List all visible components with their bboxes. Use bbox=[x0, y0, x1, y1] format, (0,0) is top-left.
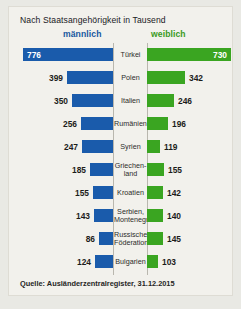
country-label: Polen bbox=[114, 73, 147, 81]
female-bar-cell: 140 bbox=[147, 204, 232, 227]
country-label-line1: Syrien bbox=[114, 142, 147, 150]
country-label-line1: Polen bbox=[114, 73, 147, 81]
chart-row: 776Türkei730 bbox=[9, 43, 232, 66]
male-value: 776 bbox=[23, 50, 45, 60]
male-bar bbox=[93, 186, 113, 199]
chart-row: 143Serbien,Montenegro140 bbox=[9, 204, 232, 227]
country-label: RussischeFöderation bbox=[114, 230, 147, 247]
female-bar bbox=[147, 186, 163, 199]
male-bar-cell: 776 bbox=[9, 43, 113, 66]
female-bar-cell: 145 bbox=[147, 227, 232, 250]
country-label-line2: Föderation bbox=[114, 239, 147, 247]
male-bar-cell: 86 bbox=[9, 227, 113, 250]
male-bar-cell: 247 bbox=[9, 135, 113, 158]
chart-row: 86RussischeFöderation145 bbox=[9, 227, 232, 250]
male-value: 256 bbox=[63, 119, 77, 129]
country-label: Serbien,Montenegro bbox=[114, 207, 147, 224]
male-bar-cell: 399 bbox=[9, 66, 113, 89]
legend-male-label: männlich bbox=[63, 29, 102, 39]
chart-rows: 776Türkei730399Polen342350Italien246256R… bbox=[9, 43, 232, 273]
chart-title: Nach Staatsangehörigkeit in Tausend bbox=[20, 15, 166, 25]
male-value: 86 bbox=[86, 234, 95, 244]
source-note: Quelle: Ausländerzentralregister, 31.12.… bbox=[20, 279, 175, 288]
female-value: 140 bbox=[167, 211, 181, 221]
country-label-line2: land bbox=[114, 170, 147, 178]
country-label: Italien bbox=[114, 96, 147, 104]
female-bar-cell: 142 bbox=[147, 181, 232, 204]
chart-panel: Nach Staatsangehörigkeit in Tausend männ… bbox=[9, 7, 232, 295]
female-value: 196 bbox=[172, 119, 186, 129]
male-value: 185 bbox=[72, 165, 86, 175]
female-value: 119 bbox=[164, 142, 178, 152]
female-value: 155 bbox=[168, 165, 182, 175]
male-bar-cell: 256 bbox=[9, 112, 113, 135]
male-value: 247 bbox=[64, 142, 78, 152]
male-bar bbox=[72, 94, 113, 107]
female-bar-cell: 119 bbox=[147, 135, 232, 158]
country-label-line1: Kroatien bbox=[114, 188, 147, 196]
country-label: Griechen-land bbox=[114, 161, 147, 178]
male-bar bbox=[81, 117, 113, 130]
chart-row: 247Syrien119 bbox=[9, 135, 232, 158]
infographic-page: Nach Staatsangehörigkeit in Tausend männ… bbox=[0, 0, 241, 309]
male-bar-cell: 143 bbox=[9, 204, 113, 227]
country-label: Türkei bbox=[114, 50, 147, 58]
female-bar bbox=[147, 94, 174, 107]
male-value: 143 bbox=[76, 211, 90, 221]
country-label-line1: Türkei bbox=[114, 50, 147, 58]
female-bar-cell: 246 bbox=[147, 89, 232, 112]
male-bar bbox=[82, 140, 113, 153]
male-bar bbox=[94, 209, 113, 222]
female-bar: 730 bbox=[147, 48, 231, 61]
chart-row: 155Kroatien142 bbox=[9, 181, 232, 204]
female-bar bbox=[147, 117, 168, 130]
chart-row: 185Griechen-land155 bbox=[9, 158, 232, 181]
male-value: 399 bbox=[49, 73, 63, 83]
female-bar-cell: 196 bbox=[147, 112, 232, 135]
female-value: 145 bbox=[167, 234, 181, 244]
male-value: 155 bbox=[75, 188, 89, 198]
country-label: Bulgarien bbox=[114, 257, 147, 265]
chart-row: 350Italien246 bbox=[9, 89, 232, 112]
country-label-line1: Bulgarien bbox=[114, 257, 147, 265]
female-bar-cell: 342 bbox=[147, 66, 232, 89]
chart-row: 399Polen342 bbox=[9, 66, 232, 89]
male-bar-cell: 155 bbox=[9, 181, 113, 204]
country-label-line1: Rumänien bbox=[114, 119, 147, 127]
male-bar: 776 bbox=[23, 48, 113, 61]
female-value: 730 bbox=[209, 50, 231, 60]
chart-row: 256Rumänien196 bbox=[9, 112, 232, 135]
chart-row: 124Bulgarien103 bbox=[9, 250, 232, 273]
male-value: 350 bbox=[54, 96, 68, 106]
female-bar-cell: 155 bbox=[147, 158, 232, 181]
country-label: Kroatien bbox=[114, 188, 147, 196]
country-label: Syrien bbox=[114, 142, 147, 150]
female-bar-cell: 730 bbox=[147, 43, 232, 66]
female-bar bbox=[147, 71, 185, 84]
female-bar bbox=[147, 140, 160, 153]
country-label-line1: Italien bbox=[114, 96, 147, 104]
male-value: 124 bbox=[77, 257, 91, 267]
male-bar-cell: 124 bbox=[9, 250, 113, 273]
female-value: 342 bbox=[189, 73, 203, 83]
female-bar bbox=[147, 255, 158, 268]
country-label: Rumänien bbox=[114, 119, 147, 127]
female-value: 142 bbox=[167, 188, 181, 198]
female-bar bbox=[147, 163, 164, 176]
male-bar-cell: 185 bbox=[9, 158, 113, 181]
male-bar-cell: 350 bbox=[9, 89, 113, 112]
female-bar bbox=[147, 209, 163, 222]
male-bar bbox=[90, 163, 113, 176]
female-value: 246 bbox=[178, 96, 192, 106]
legend-female-label: weiblich bbox=[151, 29, 186, 39]
female-bar-cell: 103 bbox=[147, 250, 232, 273]
male-bar bbox=[95, 255, 113, 268]
country-label-line2: Montenegro bbox=[114, 216, 147, 224]
male-bar bbox=[99, 232, 113, 245]
male-bar bbox=[67, 71, 113, 84]
female-bar bbox=[147, 232, 163, 245]
female-value: 103 bbox=[162, 257, 176, 267]
